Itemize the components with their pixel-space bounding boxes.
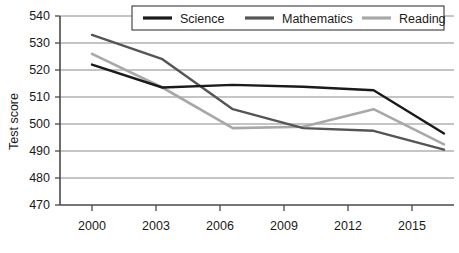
line-chart: 540 530 520 510 500 490 480 470 2000 200… — [0, 0, 459, 253]
y-tick-label-500: 500 — [29, 117, 50, 131]
y-tick-label-480: 480 — [29, 171, 50, 185]
x-axis-tick-labels: 2000 2003 2006 2009 2012 2015 — [78, 219, 426, 233]
y-axis-title: Test score — [7, 93, 21, 150]
y-tick-label-470: 470 — [29, 198, 50, 212]
y-tick-label-540: 540 — [29, 9, 50, 23]
chart-svg: 540 530 520 510 500 490 480 470 2000 200… — [0, 0, 459, 253]
x-axis-ticks — [92, 205, 412, 211]
x-tick-label-2015: 2015 — [398, 219, 426, 233]
y-tick-label-520: 520 — [29, 63, 50, 77]
legend-label-reading: Reading — [399, 12, 446, 26]
x-tick-label-2009: 2009 — [270, 219, 298, 233]
x-tick-label-2012: 2012 — [334, 219, 362, 233]
y-tick-label-530: 530 — [29, 36, 50, 50]
x-tick-label-2000: 2000 — [78, 219, 106, 233]
legend-label-science: Science — [180, 12, 225, 26]
x-tick-label-2006: 2006 — [206, 219, 234, 233]
y-axis-tick-labels: 540 530 520 510 500 490 480 470 — [29, 9, 50, 212]
chart-legend: Science Mathematics Reading — [132, 6, 446, 30]
x-tick-label-2003: 2003 — [142, 219, 170, 233]
legend-label-mathematics: Mathematics — [282, 12, 353, 26]
y-tick-label-510: 510 — [29, 90, 50, 104]
y-tick-label-490: 490 — [29, 144, 50, 158]
